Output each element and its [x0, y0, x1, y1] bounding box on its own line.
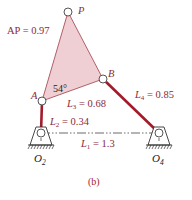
joint-o4: [155, 129, 163, 137]
coupler-triangle: [42, 12, 103, 101]
label-l1: L1 = 1.3: [80, 138, 115, 151]
link-l4: [103, 79, 159, 133]
label-a: A: [30, 90, 38, 101]
joint-b: [99, 75, 107, 83]
joint-p: [64, 8, 72, 16]
label-l4: L4 = 0.85: [134, 89, 174, 102]
joint-a: [38, 97, 46, 105]
label-ap-length: AP = 0.97: [7, 25, 50, 36]
label-o2: O2: [34, 152, 46, 167]
label-angle: 54°: [53, 83, 67, 94]
fourbar-linkage-diagram: P A B AP = 0.97 54° L3 = 0.68 L4 = 0.85 …: [0, 0, 192, 200]
label-o4: O4: [152, 152, 164, 167]
label-p: P: [77, 5, 85, 16]
label-l2: L2 = 0.34: [49, 116, 90, 129]
figure-caption: (b): [88, 176, 100, 188]
joint-o2: [37, 129, 45, 137]
label-b: B: [108, 68, 115, 79]
label-l3: L3 = 0.68: [66, 98, 106, 111]
